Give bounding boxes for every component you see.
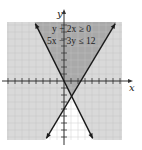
inequality-graph [0,0,142,150]
x-axis-label: x [129,83,135,93]
inequality-label-2: 5x − 3y ≤ 12 [47,36,96,46]
y-axis-label: y [57,9,63,19]
inequality-label-1: y + 2x ≥ 0 [52,24,91,34]
